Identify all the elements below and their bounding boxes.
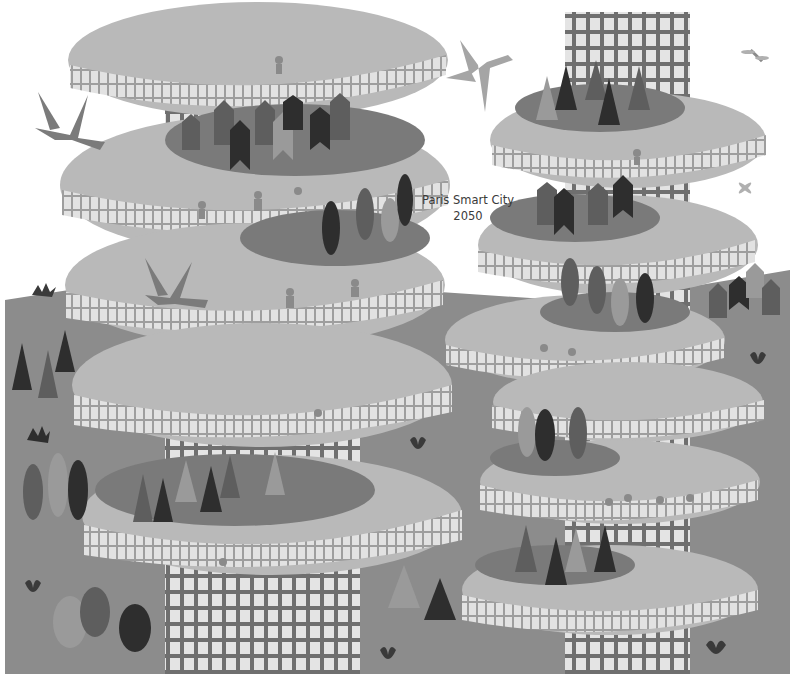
- city-illustration: [0, 0, 790, 674]
- caption-line-2: 2050: [418, 208, 518, 224]
- bird-icon: [35, 92, 105, 150]
- caption-line-1: Paris Smart City: [418, 192, 518, 208]
- dragonfly-icon: [738, 181, 753, 194]
- bird-icon: [446, 40, 513, 112]
- caption-title: Paris Smart City 2050: [418, 192, 518, 224]
- right-disc-1: [490, 84, 766, 188]
- illustration-canvas: Paris Smart City 2050: [0, 0, 790, 674]
- left-disc-4: [72, 323, 452, 447]
- dragonfly-icon: [741, 49, 769, 62]
- left-disc-1: [68, 2, 448, 118]
